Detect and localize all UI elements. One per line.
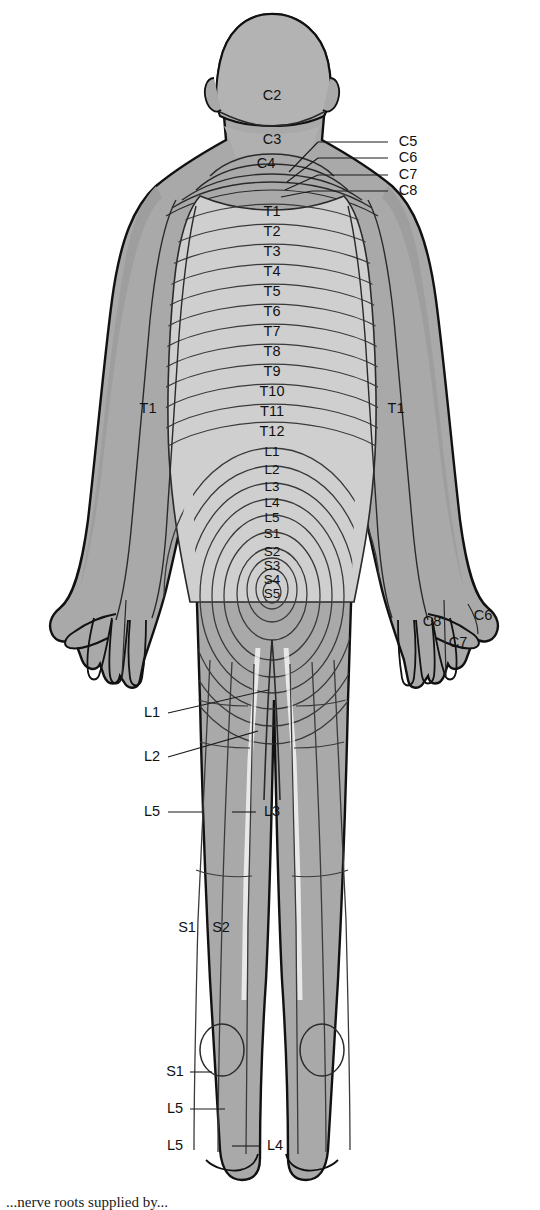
caption-strip: ...nerve roots supplied by...: [0, 1194, 540, 1210]
dermatome-label-c8: C8: [399, 182, 418, 198]
dermatome-label-t5: T5: [264, 283, 281, 299]
dermatome-figure: C2C3C4C5C6C7C8T1T2T3T4T5T6T7T8T9T10T11T1…: [0, 0, 540, 1210]
dermatome-label-c4: C4: [257, 155, 276, 171]
dermatome-label-t12: T12: [260, 423, 285, 439]
dermatome-label-c6-hand: C6: [474, 607, 493, 623]
dermatome-label-t1-left-arm: T1: [140, 400, 157, 416]
dermatome-label-c7-hand: C7: [449, 634, 468, 650]
dermatome-label-c6: C6: [399, 149, 418, 165]
dermatome-label-l5-toe: L5: [167, 1137, 183, 1153]
figure-caption: ...nerve roots supplied by...: [6, 1194, 168, 1210]
dermatome-label-l1-leg: L1: [144, 704, 160, 720]
dermatome-label-s3: S3: [264, 558, 281, 573]
dermatome-label-s1-calf: S1: [178, 919, 196, 935]
dermatome-label-t11: T11: [260, 403, 284, 419]
dermatome-label-s2: S2: [264, 544, 281, 559]
dermatome-label-l4-foot: L4: [267, 1137, 283, 1153]
dermatome-label-l3: L3: [264, 479, 279, 494]
dermatome-label-s5: S5: [264, 586, 281, 601]
dermatome-label-s1-foot: S1: [166, 1063, 184, 1079]
dermatome-label-t8: T8: [264, 343, 281, 359]
dermatome-label-l2-leg: L2: [144, 748, 160, 764]
dermatome-label-c8-hand: C8: [423, 613, 442, 629]
dermatome-label-t3: T3: [264, 243, 281, 259]
dermatome-label-s1: S1: [264, 526, 281, 541]
dermatome-label-l4: L4: [264, 495, 280, 510]
dermatome-label-l5-foot: L5: [167, 1100, 183, 1116]
dermatome-label-t6: T6: [264, 303, 281, 319]
dermatome-label-l3-thigh: L3: [264, 803, 280, 819]
dermatome-label-t10: T10: [260, 383, 285, 399]
dermatome-label-l2: L2: [264, 462, 279, 477]
dermatome-label-l5: L5: [264, 510, 279, 525]
dermatome-label-t2: T2: [264, 223, 281, 239]
dermatome-label-c5: C5: [399, 133, 418, 149]
dermatome-label-t1-right-arm: T1: [388, 400, 405, 416]
dermatome-label-c2: C2: [263, 87, 282, 103]
dermatome-label-l1: L1: [264, 444, 279, 459]
dermatome-label-t1: T1: [264, 203, 281, 219]
dermatome-diagram: C2C3C4C5C6C7C8T1T2T3T4T5T6T7T8T9T10T11T1…: [0, 0, 540, 1210]
dermatome-label-t7: T7: [264, 323, 281, 339]
dermatome-label-c3: C3: [263, 131, 282, 147]
dermatome-label-s4: S4: [264, 572, 281, 587]
dermatome-label-l5-thigh: L5: [144, 803, 160, 819]
dermatome-label-t9: T9: [264, 363, 281, 379]
dermatome-label-c7: C7: [399, 166, 418, 182]
dermatome-label-t4: T4: [264, 263, 281, 279]
dermatome-label-s2-calf: S2: [212, 919, 230, 935]
